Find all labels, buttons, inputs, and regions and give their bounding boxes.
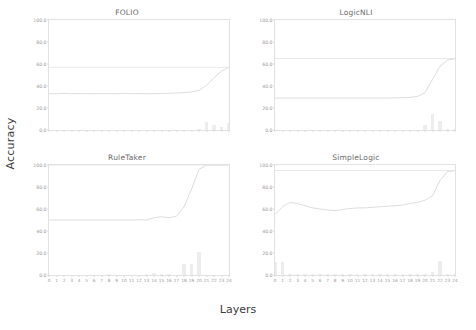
y-tick-label: 80.0 <box>36 185 46 190</box>
x-tick-label: 0 <box>274 278 277 283</box>
x-tick-label: 9 <box>115 278 118 283</box>
x-tick-label: 21 <box>430 278 435 283</box>
x-tick-mark <box>350 130 351 132</box>
x-tick-label: 17 <box>174 278 179 283</box>
x-tick-label: 16 <box>166 278 171 283</box>
x-tick-label: 7 <box>100 278 103 283</box>
y-tick-mark <box>273 187 275 188</box>
y-tick-label: 100.0 <box>259 163 272 168</box>
y-tick-label: 100.0 <box>33 163 46 168</box>
y-tick-mark <box>47 42 49 43</box>
x-tick-mark <box>169 130 170 132</box>
x-tick-label: 11 <box>129 278 134 283</box>
x-tick-label: 9 <box>341 278 344 283</box>
x-tick-label: 18 <box>407 278 412 283</box>
y-tick-label: 80.0 <box>262 185 272 190</box>
y-tick-label: 100.0 <box>33 18 46 23</box>
y-tick-label: 80.0 <box>36 40 46 45</box>
y-tick-mark <box>47 253 49 254</box>
x-tick-mark <box>206 130 207 132</box>
plot-area <box>49 20 229 130</box>
y-tick-mark <box>273 231 275 232</box>
x-tick-label: 20 <box>422 278 427 283</box>
x-tick-mark <box>131 130 132 132</box>
x-tick-label: 23 <box>445 278 450 283</box>
x-tick-mark <box>214 130 215 132</box>
y-tick-mark <box>273 253 275 254</box>
y-axis-label: Accuracy <box>2 0 20 286</box>
x-tick-label: 23 <box>219 278 224 283</box>
series-line <box>275 59 455 99</box>
y-tick-mark <box>47 86 49 87</box>
x-tick-mark <box>387 130 388 132</box>
x-tick-label: 21 <box>204 278 209 283</box>
y-tick-label: 40.0 <box>36 229 46 234</box>
y-tick-label: 60.0 <box>36 62 46 67</box>
x-tick-mark <box>365 130 366 132</box>
x-tick-mark <box>124 130 125 132</box>
y-tick-mark <box>47 108 49 109</box>
plot-axes: 0.020.040.060.080.0100.00123456789101112… <box>48 164 230 276</box>
y-tick-mark <box>273 86 275 87</box>
y-tick-label: 100.0 <box>259 18 272 23</box>
x-tick-label: 5 <box>311 278 314 283</box>
plot-area <box>275 165 455 275</box>
y-tick-mark <box>273 20 275 21</box>
series-canvas <box>275 20 455 130</box>
x-tick-label: 6 <box>93 278 96 283</box>
series-canvas <box>275 165 455 275</box>
x-tick-mark <box>312 130 313 132</box>
x-tick-mark <box>335 130 336 132</box>
y-tick-label: 40.0 <box>36 84 46 89</box>
y-tick-mark <box>47 231 49 232</box>
y-tick-mark <box>273 209 275 210</box>
y-tick-label: 0.0 <box>265 128 272 133</box>
x-tick-mark <box>432 130 433 132</box>
x-tick-mark <box>176 130 177 132</box>
x-tick-label: 11 <box>355 278 360 283</box>
y-tick-label: 60.0 <box>36 207 46 212</box>
panel-folio: FOLIO 0.020.040.060.080.0100.0 <box>22 8 232 150</box>
x-tick-mark <box>282 130 283 132</box>
x-tick-label: 24 <box>226 278 231 283</box>
x-tick-mark <box>380 130 381 132</box>
x-tick-label: 14 <box>151 278 156 283</box>
panel-ruletaker: RuleTaker 0.020.040.060.080.0100.0012345… <box>22 153 232 295</box>
x-tick-label: 18 <box>181 278 186 283</box>
series-line <box>275 171 455 215</box>
x-tick-mark <box>395 130 396 132</box>
y-tick-mark <box>47 20 49 21</box>
x-tick-label: 12 <box>362 278 367 283</box>
x-tick-label: 8 <box>334 278 337 283</box>
x-axis-label: Layers <box>0 303 476 316</box>
y-tick-label: 20.0 <box>36 106 46 111</box>
x-tick-label: 16 <box>392 278 397 283</box>
panel-title: SimpleLogic <box>248 153 464 162</box>
x-tick-mark <box>425 130 426 132</box>
y-tick-mark <box>47 187 49 188</box>
x-tick-mark <box>199 130 200 132</box>
x-tick-mark <box>275 130 276 132</box>
y-tick-label: 0.0 <box>265 273 272 278</box>
series-line <box>49 165 229 220</box>
x-tick-label: 17 <box>400 278 405 283</box>
x-tick-mark <box>161 130 162 132</box>
x-tick-label: 1 <box>55 278 58 283</box>
x-tick-mark <box>447 130 448 132</box>
x-tick-mark <box>64 130 65 132</box>
x-tick-label: 7 <box>326 278 329 283</box>
x-tick-mark <box>221 130 222 132</box>
plot-area <box>49 165 229 275</box>
x-tick-label: 19 <box>415 278 420 283</box>
y-tick-mark <box>47 165 49 166</box>
panel-logicnli: LogicNLI 0.020.040.060.080.0100.0 <box>248 8 464 150</box>
x-tick-mark <box>290 130 291 132</box>
y-tick-label: 0.0 <box>39 128 46 133</box>
x-tick-mark <box>342 130 343 132</box>
x-tick-label: 10 <box>347 278 352 283</box>
series-canvas <box>49 165 229 275</box>
y-tick-mark <box>273 64 275 65</box>
x-tick-label: 4 <box>78 278 81 283</box>
y-tick-label: 60.0 <box>262 62 272 67</box>
x-tick-label: 12 <box>136 278 141 283</box>
